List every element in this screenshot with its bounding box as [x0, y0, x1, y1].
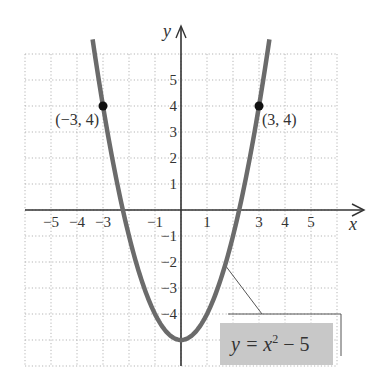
x-tick-label: −5: [43, 214, 59, 230]
point-label: (3, 4): [262, 111, 297, 129]
y-tick-label: 2: [170, 150, 178, 166]
y-tick-label: −3: [161, 280, 177, 296]
equation-annotation: y = x2 − 5: [220, 267, 341, 365]
equation-label: y = x2 − 5: [229, 332, 310, 356]
x-tick-label: 1: [203, 214, 211, 230]
parabola-chart: x y −5−4−3−1134554321−1−2−3−4 y = x2 − 5…: [0, 0, 388, 390]
y-tick-label: −1: [161, 228, 177, 244]
y-tick-label: 1: [170, 176, 178, 192]
x-tick-label: 3: [255, 214, 263, 230]
y-tick-label: 4: [170, 98, 178, 114]
x-tick-label: 5: [307, 214, 315, 230]
y-tick-label: −4: [161, 306, 177, 322]
x-tick-label: −4: [69, 214, 85, 230]
point-label: (−3, 4): [55, 111, 99, 129]
point-marker: [255, 102, 264, 111]
tick-labels: −5−4−3−1134554321−1−2−3−4: [43, 72, 315, 322]
x-tick-label: −3: [95, 214, 111, 230]
y-tick-label: 3: [170, 124, 178, 140]
y-axis-label: y: [161, 21, 171, 41]
x-tick-label: 4: [281, 214, 289, 230]
x-axis-label: x: [348, 214, 357, 234]
y-tick-label: −2: [161, 254, 177, 270]
y-tick-label: 5: [170, 72, 178, 88]
leader-line: [226, 267, 262, 314]
point-marker: [99, 102, 108, 111]
